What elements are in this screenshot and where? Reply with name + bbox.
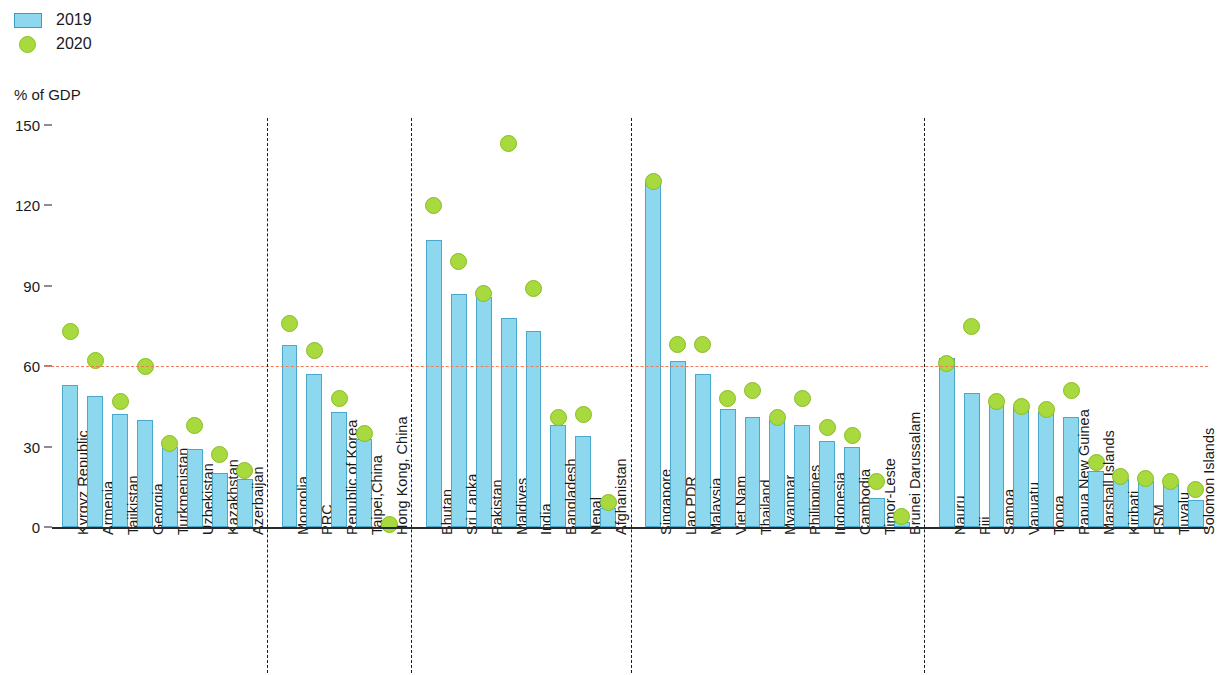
group-separator xyxy=(267,118,268,673)
dot-2020 xyxy=(744,382,761,399)
y-axis-tick-label: 90 xyxy=(0,277,40,294)
dot-2020 xyxy=(112,393,129,410)
group-separator xyxy=(924,118,925,673)
x-axis-category-label: Solomon Islands xyxy=(1201,428,1217,535)
dot-2020 xyxy=(1038,401,1055,418)
bar-2019 xyxy=(964,393,980,527)
dot-2020 xyxy=(719,390,736,407)
y-axis-tick-label: 0 xyxy=(0,519,40,536)
dot-2020 xyxy=(844,427,861,444)
group-separator xyxy=(411,118,412,673)
dot-2020 xyxy=(1013,398,1030,415)
dot-2020 xyxy=(769,409,786,426)
bar-2019 xyxy=(426,240,442,527)
x-axis-category-label: Brunei Darussalam xyxy=(907,412,923,535)
dot-2020 xyxy=(450,253,467,270)
x-axis-category-label: Hong Kong, China xyxy=(394,417,410,536)
dot-2020 xyxy=(356,425,373,442)
dot-2020 xyxy=(525,280,542,297)
dot-2020 xyxy=(425,197,442,214)
reference-line-60 xyxy=(46,366,1208,367)
dot-2020 xyxy=(62,323,79,340)
y-axis-tick-mark xyxy=(44,527,52,528)
dot-2020 xyxy=(550,409,567,426)
dot-2020 xyxy=(281,315,298,332)
group-separator xyxy=(631,118,632,673)
y-axis-tick-label: 120 xyxy=(0,197,40,214)
dot-2020 xyxy=(1112,468,1129,485)
dot-2020 xyxy=(669,336,686,353)
dot-2020 xyxy=(645,173,662,190)
dot-2020 xyxy=(694,336,711,353)
dot-2020 xyxy=(819,419,836,436)
dot-2020 xyxy=(1063,382,1080,399)
y-axis-tick-mark xyxy=(44,446,52,447)
dot-2020 xyxy=(500,135,517,152)
y-axis-tick-mark xyxy=(44,125,52,126)
bar-2019 xyxy=(526,331,542,527)
dot-2020 xyxy=(794,390,811,407)
dot-2020 xyxy=(1162,473,1179,490)
dot-2020 xyxy=(575,406,592,423)
dot-2020 xyxy=(963,318,980,335)
y-axis-tick-label: 60 xyxy=(0,358,40,375)
dot-2020 xyxy=(988,393,1005,410)
dot-2020 xyxy=(306,342,323,359)
y-axis-tick-mark xyxy=(44,285,52,286)
y-axis-tick-label: 150 xyxy=(0,117,40,134)
dot-2020 xyxy=(186,417,203,434)
dot-2020 xyxy=(331,390,348,407)
x-axis-category-label: Azerbaijan xyxy=(250,466,266,535)
x-axis-category-label: Afghanistan xyxy=(613,458,629,535)
y-axis-tick-mark xyxy=(44,205,52,206)
y-axis-tick-label: 30 xyxy=(0,438,40,455)
